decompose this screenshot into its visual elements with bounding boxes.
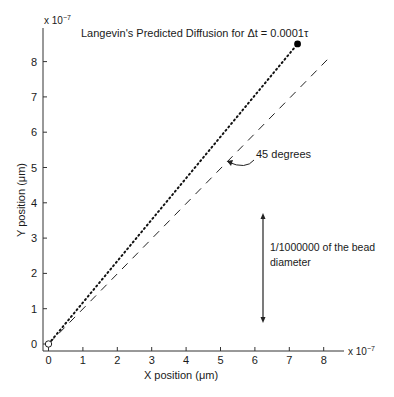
chart-figure: 012345678 012345678 x 10−7 x 10−7 Langev… — [0, 0, 394, 397]
y-ticks: 012345678 — [31, 56, 47, 350]
x-tick-label: 8 — [321, 354, 327, 366]
x-axis-label: X position (μm) — [144, 369, 218, 381]
y-tick-label: 6 — [31, 126, 37, 138]
y-axis-multiplier: x 10−7 — [44, 14, 71, 26]
x-axis-multiplier: x 10−7 — [348, 345, 375, 357]
x-tick-label: 4 — [183, 354, 189, 366]
y-tick-label: 4 — [31, 197, 37, 209]
y-tick-label: 8 — [31, 56, 37, 68]
x-tick-label: 2 — [114, 354, 120, 366]
diffusion-path-line — [49, 44, 298, 344]
x-ticks: 012345678 — [45, 347, 326, 366]
x-tick-label: 7 — [286, 354, 292, 366]
y-tick-label: 1 — [31, 303, 37, 315]
annotation-bead-diameter-line1: 1/1000000 of the bead — [270, 241, 375, 253]
y-axis-label: Y position (μm) — [15, 163, 27, 237]
arrow-head-icon — [227, 160, 233, 166]
axes — [43, 28, 344, 351]
y-tick-label: 3 — [31, 232, 37, 244]
y-tick-label: 0 — [31, 338, 37, 350]
annotation-45-degrees: 45 degrees — [256, 148, 312, 160]
annotation-bead-diameter-line2: diameter — [270, 256, 311, 268]
reference-45-degree-line — [49, 56, 331, 344]
x-tick-label: 3 — [149, 354, 155, 366]
chart-title: Langevin's Predicted Diffusion for Δt = … — [81, 27, 309, 39]
x-tick-label: 1 — [80, 354, 86, 366]
arrow-up-icon — [261, 213, 266, 219]
y-tick-label: 5 — [31, 162, 37, 174]
arrow-down-icon — [261, 317, 266, 323]
y-tick-label: 7 — [31, 91, 37, 103]
x-tick-label: 6 — [252, 354, 258, 366]
x-tick-label: 0 — [45, 354, 51, 366]
end-point-marker — [294, 41, 301, 48]
y-tick-label: 2 — [31, 267, 37, 279]
start-point-marker — [45, 341, 51, 347]
x-tick-label: 5 — [217, 354, 223, 366]
